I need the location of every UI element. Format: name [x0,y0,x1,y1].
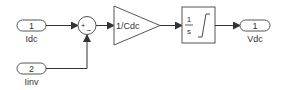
outport-label: Vdc [247,34,263,44]
sum-block[interactable]: + − [78,17,96,36]
sum-sign-plus: + [81,21,86,30]
integrator-denominator: s [187,27,191,36]
gain-label: 1/Cdc [116,21,140,31]
inport-iinv[interactable]: 2 Iinv [17,63,46,87]
outport-number: 1 [252,21,257,31]
integrator-numerator: 1 [187,15,192,24]
integrator-block[interactable]: 1 s [182,7,215,43]
inport-label: Idc [25,34,38,44]
signal-line-iinv-to-sum[interactable] [46,35,87,69]
outport-vdc[interactable]: 1 Vdc [240,20,270,44]
inport-number: 1 [29,21,34,31]
sum-sign-minus: − [87,26,92,35]
inport-label: Iinv [24,77,39,87]
inport-idc[interactable]: 1 Idc [17,20,46,44]
inport-number: 2 [29,64,34,74]
gain-block[interactable]: 1/Cdc [114,6,160,45]
block-diagram-canvas: 1 Idc 2 Iinv + − 1/Cdc 1 s 1 Vdc [0,0,285,90]
